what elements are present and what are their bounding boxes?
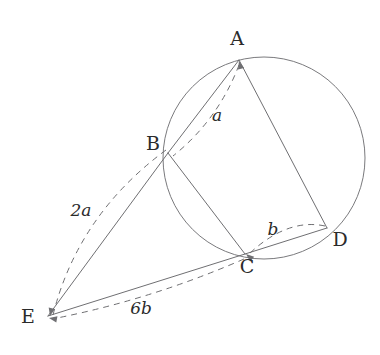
measure-label-6b: 6b	[130, 298, 152, 318]
measure-label-a: a	[212, 105, 222, 125]
measure-label-2a: 2a	[70, 200, 92, 220]
arrowheads-group	[47, 60, 254, 322]
segment-B-C	[168, 153, 245, 254]
measure-labels-group: a2ab6b	[70, 105, 279, 318]
vertex-label-E: E	[21, 305, 35, 327]
vertex-label-C: C	[240, 255, 255, 277]
vertex-label-B: B	[146, 132, 160, 154]
solid-segments-group	[48, 60, 327, 316]
segment-A-B	[168, 60, 239, 153]
vertex-labels-group: ABCDE	[21, 27, 348, 327]
measure-arc-6b-arrowhead	[48, 315, 57, 323]
segment-C-D	[245, 228, 327, 254]
measure-label-b: b	[268, 219, 279, 239]
geometry-figure: a2ab6b ABCDE	[0, 0, 380, 355]
segment-E-B	[48, 153, 168, 316]
geometry-canvas: a2ab6b ABCDE	[0, 0, 380, 355]
vertex-label-A: A	[229, 27, 244, 49]
segment-A-D	[239, 60, 327, 228]
measure-arc-a	[173, 65, 239, 156]
dashed-measure-arcs-group	[52, 65, 325, 319]
vertex-label-D: D	[332, 228, 347, 250]
